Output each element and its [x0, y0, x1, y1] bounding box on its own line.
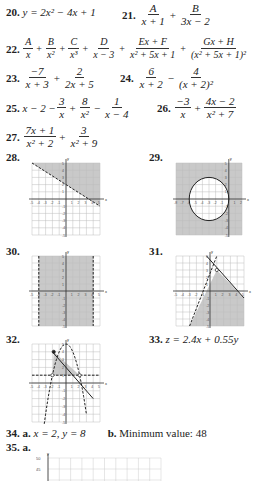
problem-number: 23. [6, 72, 20, 84]
x-axis-label: x [247, 197, 249, 202]
y-tick-label: 4 [62, 262, 64, 266]
y-tick-label: -3 [62, 311, 65, 315]
part-label: b. [108, 427, 117, 439]
x-tick-label: -2 [50, 201, 53, 205]
x-tick-label: -7 [181, 201, 184, 205]
y-tick-label: -2 [62, 212, 65, 216]
x-tick-label: -3 [188, 293, 191, 297]
problem-number: 28. [6, 151, 20, 163]
x-tick-label: -5 [194, 201, 197, 205]
y-tick-label: -4 [62, 413, 65, 417]
problem-34: 34. a. x = 2, y = 8 b. Minimum value: 48 [6, 427, 207, 439]
operator: + [194, 102, 200, 114]
y-tick-label: 3 [225, 176, 227, 180]
numerator: Gx + H [201, 36, 236, 49]
problem-21: 21. Ax + 1 + B3x − 2 [122, 2, 213, 27]
denominator: x² [45, 49, 56, 61]
problem-22: 22. Ax+Bx²+Cx³+Dx − 3+Ex + Fx² + 5x + 1+… [6, 36, 249, 61]
x-tick-label: -4 [37, 385, 40, 389]
problem-number: 35. [6, 441, 20, 453]
y-tick-label: 4 [62, 169, 64, 173]
fraction: B3x − 2 [179, 2, 212, 27]
y-tick-label: 2 [62, 276, 64, 280]
problem-33: 33. z = 2.4x + 0.55y [149, 333, 238, 345]
operator: − [94, 102, 100, 114]
y-tick-label: 50 [36, 456, 41, 461]
x-tick-label: 2 [78, 293, 80, 297]
problem-24: 24. 6x + 2 − 4(x + 2)² [120, 65, 216, 90]
problem-27: 27. 7x + 1x² + 2 + 3x² + 9 [6, 124, 100, 149]
numerator: Ex + F [136, 36, 168, 49]
fraction: 8x² [79, 95, 91, 120]
graph-31: xy-5-4-3-2-112345-5-4-3-2-112345 [170, 250, 254, 332]
y-tick-label: 1 [225, 190, 227, 194]
y-tick-label: -4 [206, 318, 209, 322]
y-axis-label: y [67, 338, 69, 342]
y-tick-label: 1 [62, 190, 64, 194]
x-tick-label: 1 [71, 293, 73, 297]
y-tick-label: 2 [62, 366, 64, 370]
x-tick-label: -5 [30, 293, 33, 297]
y-tick-label: 5 [62, 255, 64, 259]
graph-30: xy-5-4-3-2-112345-5-4-3-2-112345 [26, 250, 110, 332]
x-tick-label: -3 [44, 201, 47, 205]
x-tick-label: -4 [37, 201, 40, 205]
x-tick-label: -1 [220, 201, 223, 205]
y-tick-label: -1 [206, 297, 209, 301]
x-tick-label: -5 [174, 293, 177, 297]
x-tick-label: -5 [30, 385, 33, 389]
y-tick-label: -3 [62, 219, 65, 223]
x-tick-label: 3 [84, 293, 86, 297]
x-tick-label: -4 [200, 201, 203, 205]
x-tick-label: 1 [215, 293, 217, 297]
x-tick-label: 5 [98, 293, 100, 297]
fraction: 22x + 5 [63, 65, 96, 90]
y-tick-label: 1 [62, 283, 64, 287]
problem-25: 25. x − 2 − 3x + 8x² − 1x − 4 [6, 95, 131, 120]
y-axis-label: y [67, 250, 69, 254]
y-tick-label: -4 [62, 226, 65, 230]
operator: + [180, 43, 186, 54]
y-tick-label: 4 [206, 262, 208, 266]
operator: + [83, 43, 89, 54]
answer-a: x = 2, y = 8 [34, 427, 86, 439]
operator: + [69, 102, 75, 114]
x-tick-label: 1 [71, 385, 73, 389]
fraction: 3x [57, 95, 67, 120]
denominator: x − 3 [91, 49, 116, 61]
y-tick-label: -1 [62, 389, 65, 393]
x-tick-label: -5 [30, 201, 33, 205]
fraction: Ex + Fx² + 5x + 1 [128, 36, 177, 61]
fraction: 6x + 2 [138, 65, 165, 90]
problem-number: 34. [6, 427, 20, 439]
y-tick-label: 3 [62, 358, 64, 362]
y-tick-label: -2 [206, 304, 209, 308]
problem-number: 22. [6, 43, 20, 55]
fraction: Cx³ [68, 36, 79, 61]
operator: + [119, 43, 125, 54]
fraction: 7x + 1x² + 2 [24, 124, 57, 149]
problem-number: 33. [149, 333, 163, 345]
x-tick-label: 3 [84, 201, 86, 205]
problem-number: 29. [149, 151, 163, 163]
graph-28: xy-5-4-3-2-112345-5-4-3-2-112345 [26, 157, 110, 241]
x-tick-label: -3 [44, 385, 47, 389]
fraction: Ax + 1 [140, 2, 167, 27]
x-tick-label: -4 [181, 293, 184, 297]
equation: y = 2x² − 4x + 1 [23, 6, 96, 18]
x-tick-label: 4 [91, 385, 93, 389]
y-tick-label: 4 [225, 169, 227, 173]
x-tick-label: 1 [233, 201, 235, 205]
problem-number: 21. [122, 9, 136, 21]
y-tick-label: 45 [36, 467, 41, 472]
x-tick-label: 2 [78, 201, 80, 205]
y-tick-label: -5 [62, 421, 65, 425]
operator: + [59, 131, 65, 143]
part-label: a. [23, 427, 31, 439]
y-tick-label: -1 [62, 297, 65, 301]
y-tick-label: 5 [62, 162, 64, 166]
problem-number: 24. [120, 72, 134, 84]
x-tick-label: -2 [194, 293, 197, 297]
x-tick-label: -1 [57, 293, 60, 297]
y-tick-label: -5 [206, 325, 209, 329]
